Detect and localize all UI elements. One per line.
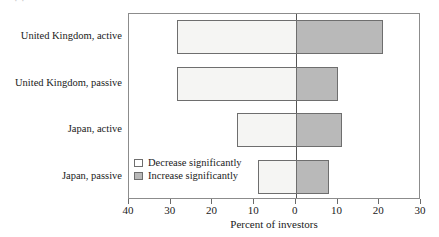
bar-increase-significantly <box>296 160 329 194</box>
legend-item-increase: Increase significantly <box>134 169 242 182</box>
x-tick-label-1: 30 <box>155 204 185 216</box>
chart-legend: Decrease significantly Increase signific… <box>134 156 242 182</box>
bar-decrease-significantly <box>258 160 297 194</box>
bar-increase-significantly <box>296 113 342 147</box>
plot-area: Decrease significantly Increase signific… <box>128 13 420 199</box>
x-tick-label-6: 20 <box>363 204 393 216</box>
legend-swatch-decrease-icon <box>134 159 143 167</box>
legend-label-decrease: Decrease significantly <box>148 156 242 169</box>
legend-swatch-increase-icon <box>134 172 143 180</box>
legend-label-increase: Increase significantly <box>148 169 238 182</box>
bar-row <box>129 20 419 54</box>
x-tick-label-7: 30 <box>405 204 435 216</box>
clipped-title-remnant: · · <box>14 0 25 6</box>
x-tick-label-3: 10 <box>238 204 268 216</box>
x-axis-title: Percent of investors <box>128 218 420 230</box>
x-tick-label-4: 0 <box>280 204 310 216</box>
chart-figure: · · United Kingdom, activeUnited Kingdom… <box>0 0 439 237</box>
category-label-4: Japan, passive <box>0 170 122 182</box>
category-label-2: United Kingdom, passive <box>0 77 122 89</box>
x-tick-label-5: 10 <box>322 204 352 216</box>
legend-item-decrease: Decrease significantly <box>134 156 242 169</box>
category-label-1: United Kingdom, active <box>0 30 122 42</box>
bar-decrease-significantly <box>237 113 296 147</box>
bar-row <box>129 67 419 101</box>
x-tick-label-2: 20 <box>196 204 226 216</box>
bar-row <box>129 113 419 147</box>
category-label-3: Japan, active <box>0 123 122 135</box>
bar-increase-significantly <box>296 20 384 54</box>
x-tick-label-0: 40 <box>113 204 143 216</box>
bar-decrease-significantly <box>177 20 297 54</box>
bar-increase-significantly <box>296 67 338 101</box>
bar-decrease-significantly <box>177 67 297 101</box>
